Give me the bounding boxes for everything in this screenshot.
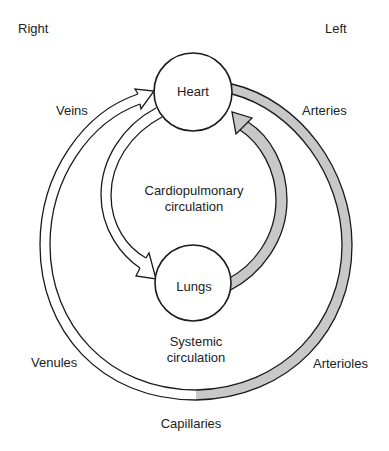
systemic-label-line1: Systemic (170, 334, 223, 350)
veins-arrowhead (135, 89, 154, 109)
arterioles-label: Arterioles (313, 356, 368, 372)
right-side-label: Right (18, 21, 48, 37)
pulmonary-vein-band (226, 122, 287, 291)
lungs-label: Lungs (176, 279, 211, 295)
cardiopulmonary-label-line2: circulation (165, 199, 224, 215)
capillaries-label: Capillaries (161, 416, 222, 432)
venules-label: Venules (31, 355, 77, 371)
left-side-label: Left (325, 21, 347, 37)
circulation-diagram: Right Left Heart Lungs Veins Arteries Ca… (0, 0, 389, 451)
systemic-label-line2: circulation (167, 350, 226, 366)
diagram-canvas (0, 0, 389, 451)
veins-label: Veins (56, 103, 88, 119)
pulmonary-artery-arrowhead (136, 253, 156, 279)
arteries-label: Arteries (302, 103, 347, 119)
heart-label: Heart (177, 84, 209, 100)
cardiopulmonary-label-line1: Cardiopulmonary (145, 183, 244, 199)
